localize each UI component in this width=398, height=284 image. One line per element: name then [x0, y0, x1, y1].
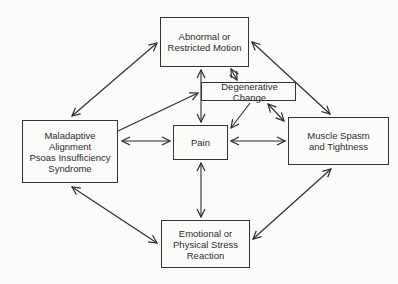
- arrow-maladaptive-emotional: [72, 187, 157, 243]
- node-abnormal-restricted-motion: Abnormal or Restricted Motion: [160, 17, 249, 67]
- node-label: Degenerative Change: [204, 81, 295, 103]
- node-label: Emotional or Physical Stress Reaction: [173, 228, 238, 261]
- node-label: Pain: [191, 137, 210, 148]
- node-label: Maladaptive Alignment Psoas Insufficienc…: [29, 130, 110, 174]
- node-degenerative-change: Degenerative Change: [201, 82, 296, 101]
- node-emotional-stress: Emotional or Physical Stress Reaction: [161, 220, 250, 268]
- arrow-abnormal-degenerative: [231, 69, 237, 80]
- arrow-abnormal-muscle: [252, 42, 330, 114]
- arrow-degenerative-muscle: [268, 104, 284, 121]
- arrow-maladaptive-abnormal: [72, 43, 157, 116]
- arrow-degenerative-pain: [231, 103, 250, 128]
- node-pain: Pain: [173, 125, 228, 160]
- arrow-muscle-emotional: [253, 169, 331, 239]
- node-maladaptive-alignment: Maladaptive Alignment Psoas Insufficienc…: [22, 120, 118, 183]
- node-muscle-spasm: Muscle Spasm and Tightness: [288, 117, 389, 165]
- node-label: Abnormal or Restricted Motion: [168, 31, 242, 53]
- node-label: Muscle Spasm and Tightness: [307, 130, 369, 152]
